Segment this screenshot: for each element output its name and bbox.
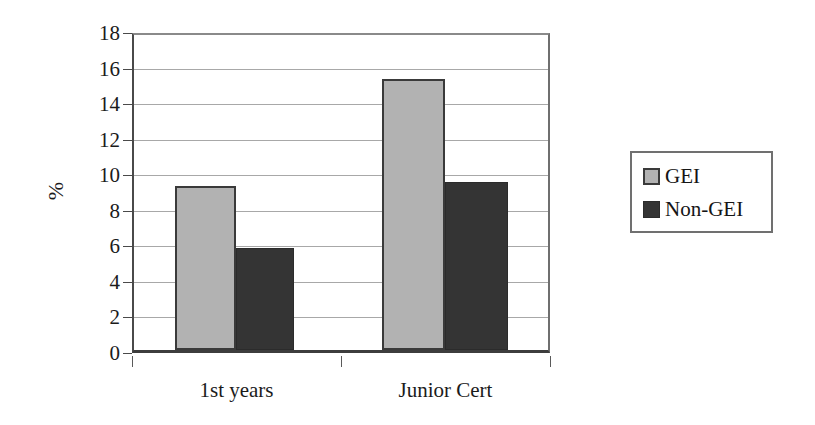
y-axis-title: % — [43, 161, 69, 221]
legend-item-nongei: Non-GEI — [643, 193, 771, 226]
legend-label-nongei: Non-GEI — [665, 199, 743, 220]
legend: GEI Non-GEI — [630, 151, 773, 233]
y-tick-label-6: 6 — [80, 236, 120, 257]
y-tick-mark-16 — [123, 69, 132, 70]
y-tick-mark-14 — [123, 104, 132, 105]
gridline-16 — [134, 69, 548, 70]
x-tick-mark-left — [132, 356, 133, 367]
y-tick-mark-12 — [123, 140, 132, 141]
y-tick-label-0: 0 — [80, 343, 120, 364]
y-tick-mark-10 — [123, 175, 132, 176]
gridline-12 — [134, 140, 548, 141]
legend-swatch-nongei-icon — [643, 201, 660, 218]
x-tick-label-junior-cert: Junior Cert — [341, 378, 550, 403]
y-tick-mark-18 — [123, 33, 132, 34]
legend-swatch-gei-icon — [643, 168, 660, 185]
y-tick-label-18: 18 — [80, 23, 120, 44]
y-tick-label-8: 8 — [80, 200, 120, 221]
y-tick-mark-8 — [123, 211, 132, 212]
legend-label-gei: GEI — [665, 166, 700, 187]
y-axis-tick-labels: 18 16 14 12 10 8 6 4 2 0 — [74, 33, 120, 353]
y-tick-label-14: 14 — [80, 94, 120, 115]
y-tick-label-10: 10 — [80, 165, 120, 186]
y-tick-mark-6 — [123, 246, 132, 247]
y-tick-label-12: 12 — [80, 129, 120, 150]
bar-nongei-1st-years — [236, 248, 294, 350]
bar-nongei-junior-cert — [445, 182, 508, 350]
bar-gei-junior-cert — [382, 79, 445, 350]
gridline-14 — [134, 104, 548, 105]
x-tick-label-1st-years: 1st years — [132, 378, 341, 403]
gridline-10 — [134, 175, 548, 176]
plot-area — [132, 33, 550, 353]
y-tick-mark-2 — [123, 317, 132, 318]
y-tick-label-2: 2 — [80, 307, 120, 328]
legend-item-gei: GEI — [643, 160, 771, 193]
x-tick-mark-right — [550, 356, 551, 367]
y-tick-mark-4 — [123, 282, 132, 283]
bar-gei-1st-years — [175, 186, 236, 350]
y-tick-label-4: 4 — [80, 271, 120, 292]
bar-chart-figure: 18 16 14 12 10 8 6 4 2 0 % — [0, 0, 815, 425]
y-tick-mark-0 — [123, 353, 132, 354]
x-tick-mark-middle — [341, 356, 342, 367]
y-tick-label-16: 16 — [80, 58, 120, 79]
